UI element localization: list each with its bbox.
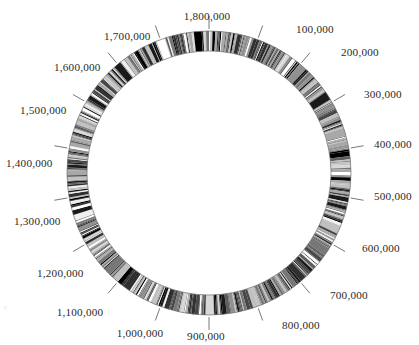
genome-band xyxy=(100,247,101,248)
genome-band xyxy=(135,63,136,64)
genome-band xyxy=(168,47,170,48)
genome-band xyxy=(249,47,251,48)
genome-band xyxy=(94,107,95,108)
genome-ring-bands xyxy=(77,41,341,305)
genome-band xyxy=(120,270,125,274)
genome-band xyxy=(276,59,277,60)
genome-band xyxy=(79,144,80,147)
genome-tick-mark xyxy=(258,25,262,37)
genome-band xyxy=(115,80,116,81)
genome-band xyxy=(99,98,100,99)
genome-band xyxy=(148,290,149,291)
genome-band xyxy=(284,64,286,65)
genome-band xyxy=(113,81,114,82)
genome-band xyxy=(127,67,130,69)
genome-band xyxy=(331,221,332,222)
genome-band xyxy=(195,41,202,42)
genome-band xyxy=(83,212,85,217)
genome-tick-label-600000: 600,000 xyxy=(362,243,400,254)
genome-tick-label-1800000: 1,800,000 xyxy=(184,11,231,22)
genome-band xyxy=(83,132,84,135)
genome-band xyxy=(315,95,316,96)
genome-tick-mark xyxy=(155,25,159,37)
genome-band xyxy=(329,117,330,120)
genome-band xyxy=(338,143,339,146)
genome-band xyxy=(255,296,257,297)
genome-band xyxy=(99,246,100,247)
genome-band xyxy=(301,267,302,268)
genome-band xyxy=(142,287,143,288)
genome-band xyxy=(263,293,264,294)
genome-band xyxy=(303,265,304,266)
genome-band xyxy=(97,243,98,244)
genome-tick-label-1100000: 1,100,000 xyxy=(57,307,104,318)
genome-band xyxy=(167,298,171,299)
genome-band xyxy=(130,67,131,68)
genome-band xyxy=(271,289,272,290)
genome-band xyxy=(281,283,282,284)
genome-band xyxy=(92,235,93,236)
genome-band xyxy=(324,109,326,112)
genome-band xyxy=(330,121,331,123)
genome-band xyxy=(146,55,149,56)
genome-band xyxy=(278,284,280,285)
genome-band xyxy=(103,251,104,252)
genome-tick-label-200000: 200,000 xyxy=(341,47,379,58)
genome-band xyxy=(141,286,142,287)
genome-band xyxy=(158,295,159,296)
genome-band xyxy=(116,79,117,80)
genome-band xyxy=(306,262,307,263)
genome-tick-mark xyxy=(73,95,84,102)
genome-tick-label-1400000: 1,400,000 xyxy=(6,158,53,169)
genome-band xyxy=(286,280,287,281)
genome-band xyxy=(138,285,139,286)
genome-band xyxy=(282,63,284,64)
genome-band xyxy=(285,280,286,281)
genome-band xyxy=(108,258,109,259)
genome-band xyxy=(171,46,174,47)
genome-band xyxy=(119,269,120,270)
genome-band xyxy=(129,278,135,282)
genome-band xyxy=(292,275,293,276)
genome-band xyxy=(313,92,314,93)
genome-tick-mark xyxy=(351,198,364,200)
genome-tick-label-1600000: 1,600,000 xyxy=(54,62,101,73)
genome-band xyxy=(101,248,102,249)
genome-band xyxy=(243,46,246,47)
genome-band xyxy=(85,219,86,221)
genome-band xyxy=(254,49,256,50)
genome-tick-label-1200000: 1,200,000 xyxy=(37,268,84,279)
genome-band xyxy=(273,57,274,58)
genome-band xyxy=(280,284,281,285)
genome-band xyxy=(262,294,263,295)
genome-band xyxy=(265,53,267,54)
genome-band xyxy=(286,66,287,67)
genome-band xyxy=(156,51,157,52)
genome-band xyxy=(275,287,276,288)
genome-band xyxy=(312,255,313,256)
genome-band xyxy=(160,48,167,51)
genome-band xyxy=(134,64,135,65)
genome-band xyxy=(275,59,276,60)
genome-band xyxy=(312,253,314,256)
genome-tick-mark xyxy=(334,245,345,252)
genome-band xyxy=(277,60,279,61)
genome-tick-mark xyxy=(302,283,310,293)
genome-tick-label-1000000: 1,000,000 xyxy=(117,328,164,339)
genome-band xyxy=(96,101,98,104)
genome-band xyxy=(81,205,82,208)
genome-tick-mark xyxy=(108,53,116,63)
genome-band xyxy=(137,62,138,63)
genome-band xyxy=(336,204,337,207)
genome-band xyxy=(109,260,110,261)
genome-tick-label-800000: 800,000 xyxy=(282,320,320,331)
genome-band xyxy=(84,129,85,131)
genome-band xyxy=(126,69,127,70)
genome-tick-mark xyxy=(351,146,364,148)
genome-band xyxy=(94,237,95,239)
genome-band xyxy=(314,93,315,94)
genome-band xyxy=(102,95,103,96)
genome-band xyxy=(106,89,108,91)
genome-band xyxy=(119,75,120,76)
genome-tick-label-700000: 700,000 xyxy=(330,290,368,301)
